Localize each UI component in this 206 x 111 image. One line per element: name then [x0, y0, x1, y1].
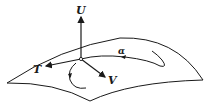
vector-t-arrow	[46, 59, 81, 66]
label-v: V	[108, 74, 118, 87]
surface-bottom-edge	[7, 80, 203, 101]
origin-point	[79, 57, 82, 60]
diagram-canvas: U T V α	[0, 0, 206, 111]
label-t: T	[33, 63, 42, 76]
rotation-arrow-icon	[69, 63, 86, 88]
label-u: U	[76, 4, 87, 17]
surface-top-edge	[7, 38, 203, 83]
vector-v-arrow	[81, 59, 105, 77]
label-alpha: α	[118, 46, 125, 56]
rotation-arrowhead-icon	[68, 73, 72, 78]
